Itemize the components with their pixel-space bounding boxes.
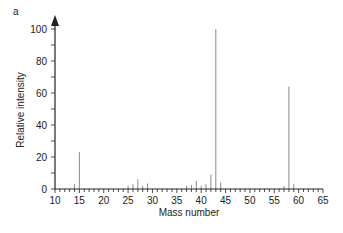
x-tick-label: 60 <box>293 195 305 206</box>
axes <box>51 15 323 189</box>
y-axis-label: Relative intensity <box>15 72 26 148</box>
x-tick-label: 65 <box>317 195 329 206</box>
x-tick-label: 55 <box>269 195 281 206</box>
x-tick-label: 50 <box>244 195 256 206</box>
x-tick-label: 25 <box>123 195 135 206</box>
mass-spectrum-chart: 101520253035404550556065020406080100 Mas… <box>0 0 343 233</box>
y-tick-label: 100 <box>30 24 47 35</box>
y-tick-label: 0 <box>41 184 47 195</box>
y-tick-label: 40 <box>36 120 48 131</box>
x-tick-label: 45 <box>220 195 232 206</box>
spectrum-peaks <box>74 29 293 189</box>
x-tick-label: 10 <box>49 195 61 206</box>
x-tick-label: 35 <box>171 195 183 206</box>
x-tick-label: 15 <box>74 195 86 206</box>
y-tick-label: 20 <box>36 152 48 163</box>
y-tick-label: 80 <box>36 56 48 67</box>
y-tick-label: 60 <box>36 88 48 99</box>
x-tick-label: 30 <box>147 195 159 206</box>
axis-ticks: 101520253035404550556065020406080100 <box>30 24 329 207</box>
y-axis-arrow-icon <box>51 15 59 26</box>
x-axis-label: Mass number <box>159 207 220 218</box>
x-tick-label: 40 <box>196 195 208 206</box>
x-tick-label: 20 <box>98 195 110 206</box>
